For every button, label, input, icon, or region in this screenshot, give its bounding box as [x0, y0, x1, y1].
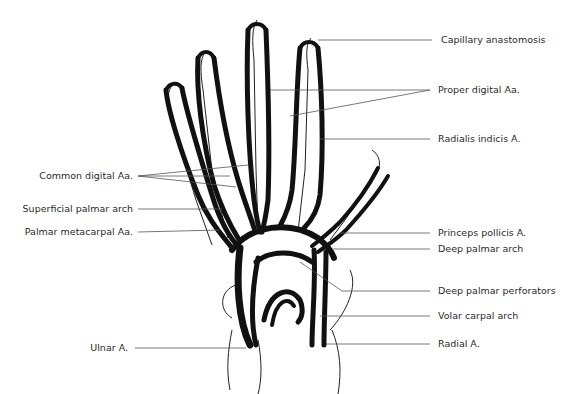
hand-arteries-diagram: [0, 0, 568, 394]
label-superficial-palmar-arch: Superficial palmar arch: [23, 203, 133, 215]
label-proper-digital-aa: Proper digital Aa.: [438, 84, 520, 96]
artery-vessels: [166, 24, 388, 345]
label-volar-carpal-arch: Volar carpal arch: [438, 310, 518, 322]
label-deep-palmar-arch: Deep palmar arch: [438, 243, 523, 255]
label-princeps-pollicis-a: Princeps pollicis A.: [438, 227, 526, 239]
label-radialis-indicis-a: Radialis indicis A.: [438, 133, 520, 145]
label-deep-palmar-perforators: Deep palmar perforators: [438, 285, 556, 297]
label-palmar-metacarpal-aa: Palmar metacarpal Aa.: [25, 226, 133, 238]
label-radial-a: Radial A.: [438, 338, 480, 350]
label-capillary-anastomosis: Capillary anastomosis: [441, 34, 546, 46]
label-common-digital-aa: Common digital Aa.: [39, 170, 133, 182]
label-ulnar-a: Ulnar A.: [90, 342, 128, 354]
